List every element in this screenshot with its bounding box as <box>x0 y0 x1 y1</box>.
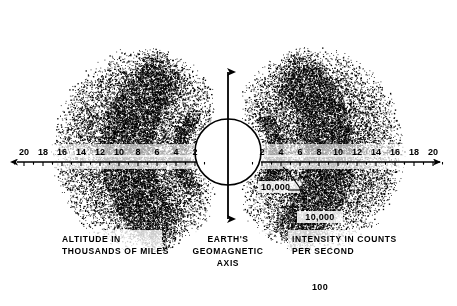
intensity-caption-line-2: PER SECOND <box>292 245 397 257</box>
axis-caption-line-2: GEOMAGNETIC <box>193 245 264 257</box>
intensity-caption: INTENSITY IN COUNTS PER SECOND <box>292 233 397 257</box>
geomagnetic-axis-caption: EARTH'S GEOMAGNETIC AXIS <box>193 233 264 269</box>
envelope-intensity-label: 100 <box>312 283 328 292</box>
altitude-tick-left-18: 18 <box>38 148 48 157</box>
outer-belt-intensity-label: 10,000 <box>305 213 334 222</box>
altitude-tick-left-4: 4 <box>173 148 178 157</box>
altitude-tick-left-16: 16 <box>57 148 67 157</box>
altitude-caption-line-1: ALTITUDE IN <box>62 233 169 245</box>
altitude-tick-left-8: 8 <box>135 148 140 157</box>
altitude-tick-right-20: 20 <box>428 148 438 157</box>
altitude-tick-right-18: 18 <box>409 148 419 157</box>
altitude-tick-right-12: 12 <box>352 148 362 157</box>
altitude-tick-right-10: 10 <box>333 148 343 157</box>
intensity-caption-line-1: INTENSITY IN COUNTS <box>292 233 397 245</box>
altitude-tick-right-16: 16 <box>390 148 400 157</box>
inner-belt-intensity-label: 10,000 <box>261 183 290 192</box>
altitude-tick-left-14: 14 <box>76 148 86 157</box>
axis-caption-line-1: EARTH'S <box>193 233 264 245</box>
altitude-tick-right-8: 8 <box>316 148 321 157</box>
altitude-axis-caption: ALTITUDE IN THOUSANDS OF MILES <box>62 233 169 257</box>
altitude-tick-left-6: 6 <box>154 148 159 157</box>
altitude-caption-line-2: THOUSANDS OF MILES <box>62 245 169 257</box>
altitude-tick-right-4: 4 <box>278 148 283 157</box>
altitude-tick-right-2: 2 <box>259 148 264 157</box>
altitude-tick-left-2: 2 <box>192 148 197 157</box>
van-allen-belt-diagram: 2018161412108642 2468101214161820 ALTITU… <box>0 0 457 306</box>
altitude-tick-left-12: 12 <box>95 148 105 157</box>
altitude-tick-right-6: 6 <box>297 148 302 157</box>
altitude-tick-left-20: 20 <box>19 148 29 157</box>
altitude-tick-left-10: 10 <box>114 148 124 157</box>
axis-caption-line-3: AXIS <box>193 257 264 269</box>
altitude-tick-right-14: 14 <box>371 148 381 157</box>
